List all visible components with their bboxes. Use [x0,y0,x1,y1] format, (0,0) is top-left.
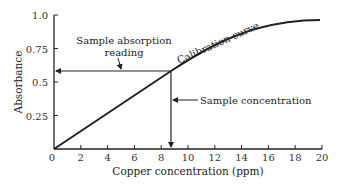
x-tick-label: 4 [104,152,110,163]
sample-reading-label-line1: Sample absorption [76,35,172,46]
x-axis-title: Copper concentration (ppm) [112,165,263,177]
x-tick-label: 12 [208,152,221,163]
x-tick-labels: 0 2 4 6 8 10 12 14 16 18 20 [49,152,329,163]
x-tick-label: 14 [235,152,248,163]
x-tick-label: 6 [131,152,137,163]
x-tick-label: 8 [158,152,164,163]
calibration-chart: 1.0 0.75 0.5 0.25 0 2 4 6 8 10 12 14 16 … [0,0,346,185]
x-tick-label: 10 [182,152,195,163]
y-axis-title: Absorbance [12,51,24,115]
y-tick-label: 1.0 [32,10,48,21]
y-tick-labels: 1.0 0.75 0.5 0.25 [26,10,48,122]
y-tick-label: 0.75 [26,44,48,55]
x-tick-label: 0 [49,152,55,163]
sample-reading-label-line2: reading [104,47,144,58]
x-tick-label: 16 [262,152,275,163]
sample-concentration-label: Sample concentration [200,95,312,106]
sample-reading-pointer [118,58,121,69]
y-tick-label: 0.5 [32,77,48,88]
calibration-curve-label: Calibration curve [175,20,260,66]
y-tick-label: 0.25 [26,111,48,122]
x-tick-label: 2 [78,152,84,163]
x-tick-label: 18 [289,152,302,163]
x-tick-label: 20 [316,152,329,163]
